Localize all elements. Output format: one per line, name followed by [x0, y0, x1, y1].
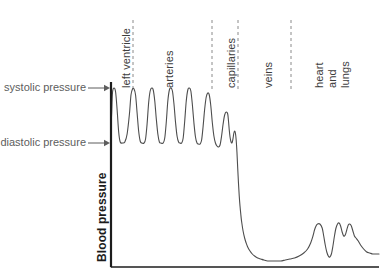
blood-pressure-figure: systolic pressurediastolic pressure left… — [0, 0, 391, 279]
y-axis-label: Blood pressure — [95, 173, 109, 262]
arrow-head-systolic — [104, 85, 110, 91]
segment-label-capillaries: capillaries — [225, 38, 237, 88]
segment-label-heart-and-lungs-line-3: lungs — [339, 61, 351, 88]
blood-pressure-curve — [111, 88, 379, 267]
diastolic-pressure-label: diastolic pressure — [0, 136, 86, 148]
segment-label-arteries: arteries — [163, 51, 175, 88]
systolic-pressure-label: systolic pressure — [4, 81, 86, 93]
segment-label-heart-and-lungs-line-1: heart — [313, 62, 325, 88]
segment-label-veins: veins — [262, 62, 274, 88]
segment-label-heart-and-lungs-line-2: and — [326, 69, 338, 88]
segment-label-left-ventricle: left ventricle — [120, 28, 132, 88]
arrow-head-diastolic — [104, 140, 110, 146]
annotation-arrows-group — [88, 85, 110, 146]
